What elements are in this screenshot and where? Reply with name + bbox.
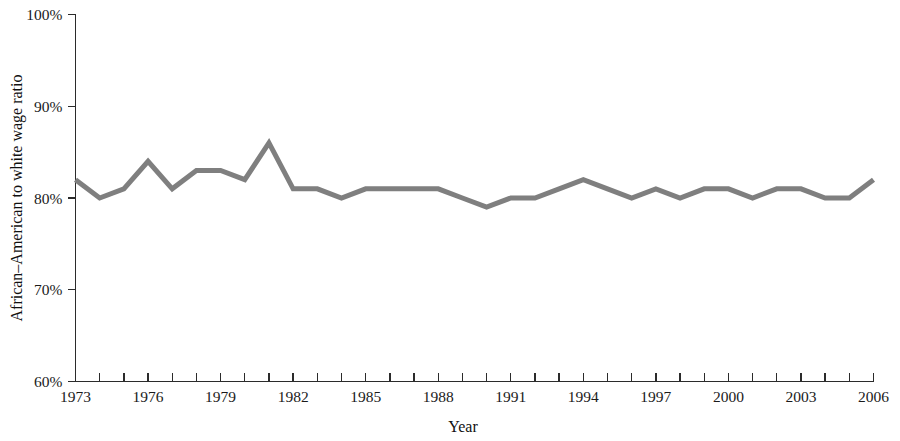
data-series-group bbox=[76, 143, 874, 207]
x-tick-label: 1991 bbox=[495, 388, 526, 405]
x-tick-label: 1994 bbox=[568, 388, 599, 405]
x-tick-label: 1985 bbox=[350, 388, 381, 405]
x-axis-title: Year bbox=[448, 418, 478, 435]
x-tick-label: 2006 bbox=[858, 388, 889, 405]
x-axis-tick-labels: 1973197619791982198519881991199419972000… bbox=[60, 388, 889, 405]
y-tick-label: 70% bbox=[34, 281, 63, 298]
y-axis-tick-labels: 100%90%80%70%60% bbox=[26, 6, 62, 390]
y-tick-label: 90% bbox=[34, 98, 63, 115]
data-line-0 bbox=[76, 143, 874, 207]
x-tick-label: 1982 bbox=[278, 388, 309, 405]
x-tick-label: 2000 bbox=[713, 388, 744, 405]
y-tick-label: 80% bbox=[34, 190, 63, 207]
y-axis-title: African–American to white wage ratio bbox=[8, 74, 26, 321]
x-tick-label: 1976 bbox=[133, 388, 164, 405]
y-tick-label: 60% bbox=[34, 373, 63, 390]
line-chart: 100%90%80%70%60% 19731976197919821985198… bbox=[0, 0, 900, 441]
x-tick-label: 1973 bbox=[60, 388, 91, 405]
x-axis-ticks bbox=[76, 373, 874, 382]
y-tick-label: 100% bbox=[26, 6, 62, 23]
x-tick-label: 1979 bbox=[205, 388, 236, 405]
chart-page: 100%90%80%70%60% 19731976197919821985198… bbox=[0, 0, 900, 441]
x-tick-label: 1988 bbox=[423, 388, 454, 405]
x-tick-label: 2003 bbox=[785, 388, 816, 405]
x-tick-label: 1997 bbox=[640, 388, 671, 405]
y-axis-ticks bbox=[68, 15, 76, 382]
